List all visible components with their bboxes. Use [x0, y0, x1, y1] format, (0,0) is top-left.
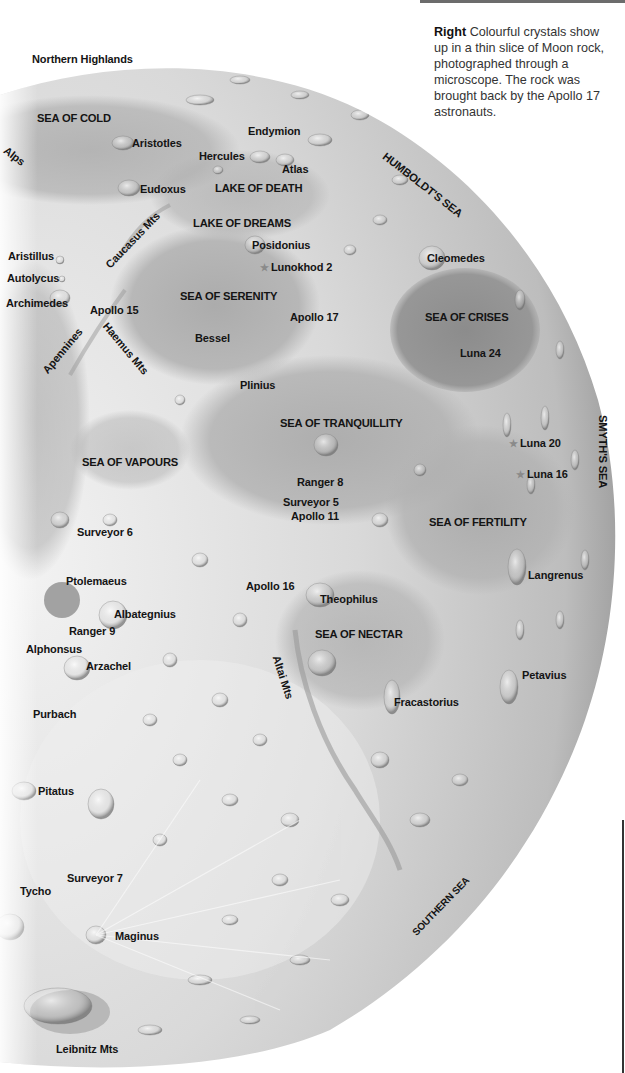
label-maginus: Maginus	[115, 930, 159, 942]
label-luna-24: Luna 24	[460, 347, 501, 359]
caption-text: Colourful crystals show up in a thin sli…	[434, 25, 604, 119]
label-bessel: Bessel	[195, 332, 230, 344]
label-archimedes: Archimedes	[6, 297, 68, 309]
label-sea-of-cold: SEA OF COLD	[37, 112, 111, 124]
label-luna-20: ★Luna 20	[509, 437, 561, 449]
label-aristillus: Aristillus	[8, 250, 54, 262]
label-pitatus: Pitatus	[38, 785, 74, 797]
label-apollo-16: Apollo 16	[246, 580, 295, 592]
label-lake-of-dreams: LAKE OF DREAMS	[193, 217, 291, 229]
label-alphonsus: Alphonsus	[26, 643, 82, 655]
label-cleomedes: Cleomedes	[427, 252, 485, 264]
label-surveyor-7: Surveyor 7	[67, 872, 123, 884]
caption-lead: Right	[434, 25, 466, 39]
star-icon: ★	[260, 262, 269, 273]
label-lake-of-death: LAKE OF DEATH	[215, 182, 302, 194]
label-eudoxus: Eudoxus	[140, 183, 186, 195]
label-langrenus: Langrenus	[528, 569, 583, 581]
label-fracastorius: Fracastorius	[394, 696, 459, 708]
label-luna-16: ★Luna 16	[516, 468, 568, 480]
label-apollo-15: Apollo 15	[90, 304, 139, 316]
label-surveyor-6: Surveyor 6	[77, 526, 133, 538]
label-atlas: Atlas	[282, 163, 308, 175]
label-ranger-9: Ranger 9	[69, 625, 115, 637]
label-surveyor-5: Surveyor 5	[283, 496, 339, 508]
label-aristotles: Aristotles	[132, 137, 182, 149]
label-leibnitz-mts: Leibnitz Mts	[56, 1043, 118, 1055]
label-sea-of-crises: SEA OF CRISES	[425, 311, 508, 323]
label-lunokhod-2: ★Lunokhod 2	[260, 261, 332, 273]
star-icon: ★	[516, 469, 525, 480]
label-purbach: Purbach	[33, 708, 76, 720]
label-arzachel: Arzachel	[86, 660, 131, 672]
label-sea-of-nectar: SEA OF NECTAR	[315, 628, 403, 640]
label-hercules: Hercules	[199, 150, 245, 162]
label-posidonius: Posidonius	[252, 239, 310, 251]
label-apollo-11: Apollo 11	[291, 510, 339, 522]
label-sea-of-tranquillity: SEA OF TRANQUILLITY	[280, 417, 403, 429]
label-endymion: Endymion	[248, 125, 300, 137]
label-apollo-17: Apollo 17	[290, 311, 339, 323]
label-autolycus: Autolycus	[7, 272, 59, 284]
label-plinius: Plinius	[240, 379, 275, 391]
label-tycho: Tycho	[20, 885, 51, 897]
label-petavius: Petavius	[522, 669, 566, 681]
label-albategnius: Albategnius	[114, 608, 176, 620]
photo-caption: Right Colourful crystals show up in a th…	[434, 24, 614, 120]
book-page: Right Colourful crystals show up in a th…	[0, 0, 625, 1073]
label-northern-highlands: Northern Highlands	[32, 53, 133, 65]
label-sea-of-serenity: SEA OF SERENITY	[180, 290, 277, 302]
label-ranger-8: Ranger 8	[297, 476, 343, 488]
label-sea-of-vapours: SEA OF VAPOURS	[82, 456, 178, 468]
label-sea-of-fertility: SEA OF FERTILITY	[429, 516, 527, 528]
label-theophilus: Theophilus	[320, 593, 378, 605]
label-smyths-sea: SMYTH'S SEA	[597, 415, 609, 488]
label-ptolemaeus: Ptolemaeus	[66, 575, 127, 587]
star-icon: ★	[509, 438, 518, 449]
